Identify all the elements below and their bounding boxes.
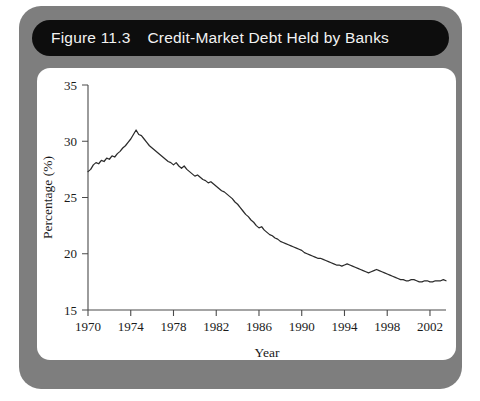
data-series-line xyxy=(88,130,446,282)
x-axis-tick-labels: 197019741978198219861990199419982002 xyxy=(75,319,443,334)
x-tick-label: 1990 xyxy=(289,319,315,334)
y-tick-label: 20 xyxy=(64,246,77,261)
y-tick-label: 35 xyxy=(64,78,77,93)
axis-tick-marks xyxy=(82,85,430,316)
y-tick-label: 15 xyxy=(64,303,77,318)
x-tick-label: 1998 xyxy=(374,319,400,334)
x-axis-title: Year xyxy=(255,345,280,360)
x-tick-label: 1982 xyxy=(203,319,229,334)
figure-number: Figure 11.3 xyxy=(51,29,130,47)
x-tick-label: 1994 xyxy=(331,319,358,334)
y-axis-tick-labels: 1520253035 xyxy=(64,78,77,318)
figure-title: Credit-Market Debt Held by Banks xyxy=(147,29,389,47)
figure-root: Figure 11.3 Credit-Market Debt Held by B… xyxy=(0,0,480,401)
y-tick-label: 30 xyxy=(64,134,77,149)
x-tick-label: 1974 xyxy=(118,319,145,334)
y-axis-title: Percentage (%) xyxy=(40,156,55,239)
y-tick-label: 25 xyxy=(64,190,77,205)
figure-title-banner: Figure 11.3 Credit-Market Debt Held by B… xyxy=(32,20,449,56)
line-chart: 1520253035 19701974197819821986199019941… xyxy=(37,68,456,360)
x-tick-label: 2002 xyxy=(417,319,443,334)
x-tick-label: 1978 xyxy=(160,319,186,334)
x-tick-label: 1970 xyxy=(75,319,101,334)
x-tick-label: 1986 xyxy=(246,319,273,334)
plot-card: 1520253035 19701974197819821986199019941… xyxy=(37,68,456,360)
